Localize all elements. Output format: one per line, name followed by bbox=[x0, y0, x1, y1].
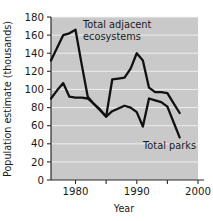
y-tick-label-160: 160 bbox=[25, 30, 44, 41]
y-axis-title: Population estimate (thousands) bbox=[2, 21, 13, 177]
series-annotation-total-adjacent-ecosystems-line2: ecosystems bbox=[83, 31, 141, 42]
x-tick-label-2000: 2000 bbox=[185, 186, 211, 197]
y-tick-label-40: 40 bbox=[31, 138, 44, 149]
y-tick-label-120: 120 bbox=[25, 66, 44, 77]
y-tick-label-60: 60 bbox=[31, 120, 44, 131]
y-tick-label-140: 140 bbox=[25, 48, 44, 59]
series-annotation-total-parks: Total parks bbox=[142, 140, 196, 151]
y-tick-label-0: 0 bbox=[38, 175, 44, 186]
y-tick-label-100: 100 bbox=[25, 84, 44, 95]
y-tick-label-80: 80 bbox=[31, 102, 44, 113]
y-tick-label-20: 20 bbox=[31, 157, 44, 168]
x-axis-ticks bbox=[76, 180, 199, 184]
x-tick-label-1980: 1980 bbox=[63, 186, 89, 197]
population-estimate-line-chart: 180 160 140 120 100 80 60 40 20 0 1980 1… bbox=[0, 0, 213, 221]
x-tick-label-1990: 1990 bbox=[124, 186, 150, 197]
y-tick-label-180: 180 bbox=[25, 12, 44, 23]
chart-figure: 180 160 140 120 100 80 60 40 20 0 1980 1… bbox=[0, 0, 213, 221]
x-axis-title: Year bbox=[113, 203, 134, 214]
series-annotation-total-adjacent-ecosystems-line1: Total adjacent bbox=[82, 19, 152, 30]
